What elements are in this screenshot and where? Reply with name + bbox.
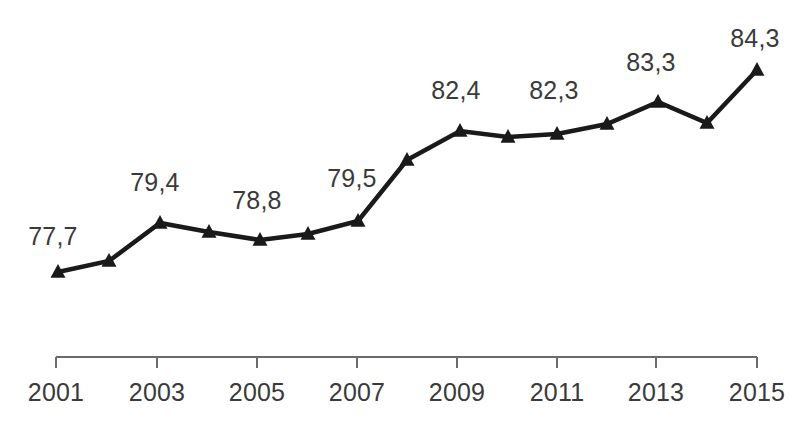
x-axis [56, 357, 757, 368]
x-axis-tick-label: 2011 [530, 378, 585, 407]
data-value-label: 82,3 [529, 76, 578, 105]
line-chart: 77,779,478,879,582,482,383,384,3 2001200… [0, 0, 806, 437]
x-axis-tick-label: 2013 [628, 378, 684, 407]
data-point-marker [651, 94, 666, 108]
x-axis-tick-label: 2015 [729, 378, 785, 407]
data-value-label: 84,3 [730, 24, 779, 53]
x-axis-tick-label: 2009 [429, 378, 485, 407]
data-value-label: 79,4 [130, 168, 179, 197]
data-value-label: 82,4 [431, 76, 480, 105]
data-point-marker [750, 62, 765, 76]
data-value-label: 79,5 [327, 164, 376, 193]
data-value-label: 83,3 [626, 48, 675, 77]
x-axis-tick-label: 2003 [129, 378, 185, 407]
x-axis-tick-label: 2001 [28, 378, 84, 407]
x-axis-tick-label: 2005 [229, 378, 285, 407]
x-axis-tick-label: 2007 [329, 378, 385, 407]
data-value-label: 77,7 [28, 222, 77, 251]
data-value-label: 78,8 [232, 186, 281, 215]
chart-plot-area [0, 0, 806, 437]
